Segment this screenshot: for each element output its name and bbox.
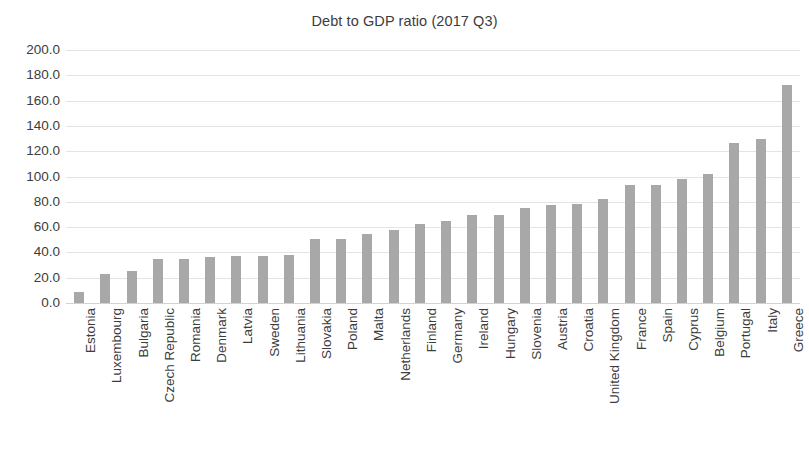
x-tick-label: Slovakia (320, 308, 334, 359)
bar-slot (459, 50, 485, 303)
bar[interactable] (310, 239, 320, 303)
bar[interactable] (415, 224, 425, 303)
bar[interactable] (520, 208, 530, 303)
bar-series (66, 50, 800, 303)
bar-slot (695, 50, 721, 303)
x-tick-label: Romania (189, 308, 203, 362)
bar-slot (721, 50, 747, 303)
bar-slot (407, 50, 433, 303)
bar-slot (564, 50, 590, 303)
bar[interactable] (703, 174, 713, 303)
bar[interactable] (231, 256, 241, 303)
bar-slot (381, 50, 407, 303)
bar-chart: Debt to GDP ratio (2017 Q3) 200.0180.016… (0, 0, 809, 476)
x-tick-label: Lithuania (294, 308, 308, 363)
x-tick-label: Netherlands (399, 308, 413, 381)
x-tick-label: Portugal (739, 308, 753, 358)
bar[interactable] (258, 256, 268, 303)
y-tick-label: 60.0 (0, 220, 60, 234)
bar[interactable] (494, 215, 504, 303)
x-tick-label: Latvia (241, 308, 255, 344)
x-tick-label: Austria (556, 308, 570, 350)
bar-slot (302, 50, 328, 303)
bar[interactable] (389, 230, 399, 303)
x-tick-label: Malta (372, 308, 386, 341)
y-tick-label: 160.0 (0, 94, 60, 108)
bar-slot (66, 50, 92, 303)
bar[interactable] (729, 143, 739, 303)
x-tick-label: Estonia (84, 308, 98, 353)
bar[interactable] (127, 271, 137, 303)
bar-slot (223, 50, 249, 303)
x-tick-label: Cyprus (687, 308, 701, 351)
bar-slot (197, 50, 223, 303)
x-tick-label: Czech Republic (163, 308, 177, 403)
bar[interactable] (441, 221, 451, 303)
bar-slot (774, 50, 800, 303)
gridline (66, 303, 800, 304)
bar-slot (118, 50, 144, 303)
bar[interactable] (598, 199, 608, 303)
x-tick-label: Bulgaria (137, 308, 151, 358)
y-tick-label: 40.0 (0, 246, 60, 260)
bar-slot (354, 50, 380, 303)
y-tick-label: 140.0 (0, 119, 60, 133)
bar[interactable] (572, 204, 582, 303)
bar-slot (250, 50, 276, 303)
bar-slot (433, 50, 459, 303)
bar-slot (643, 50, 669, 303)
x-tick-label: Sweden (268, 308, 282, 357)
bar[interactable] (546, 205, 556, 303)
x-tick-label: Croatia (582, 308, 596, 352)
x-tick-label: Germany (451, 308, 465, 364)
bar-slot (748, 50, 774, 303)
bar[interactable] (74, 292, 84, 303)
x-tick-label: France (635, 308, 649, 350)
x-tick-label: Spain (661, 308, 675, 343)
y-tick-label: 120.0 (0, 144, 60, 158)
bar[interactable] (467, 215, 477, 303)
y-tick-label: 20.0 (0, 271, 60, 285)
bar-slot (538, 50, 564, 303)
bar[interactable] (651, 185, 661, 303)
bar-slot (485, 50, 511, 303)
bar[interactable] (782, 85, 792, 303)
x-tick-label: Belgium (713, 308, 727, 357)
x-tick-label: United Kingdom (608, 308, 622, 404)
x-tick-label: Slovenia (530, 308, 544, 360)
bar[interactable] (756, 139, 766, 303)
bar-slot (328, 50, 354, 303)
bar-slot (512, 50, 538, 303)
bar[interactable] (205, 257, 215, 303)
y-tick-label: 180.0 (0, 69, 60, 83)
y-axis: 200.0180.0160.0140.0120.0100.080.060.040… (0, 0, 60, 476)
y-tick-label: 200.0 (0, 43, 60, 57)
bar[interactable] (362, 234, 372, 303)
bar-slot (590, 50, 616, 303)
bar-slot (145, 50, 171, 303)
x-tick-label: Poland (346, 308, 360, 350)
bar[interactable] (153, 259, 163, 303)
y-tick-label: 0.0 (0, 296, 60, 310)
bar[interactable] (625, 185, 635, 303)
bar[interactable] (179, 259, 189, 303)
bar-slot (92, 50, 118, 303)
bar-slot (617, 50, 643, 303)
y-tick-label: 80.0 (0, 195, 60, 209)
x-tick-label: Denmark (215, 308, 229, 363)
x-tick-label: Italy (766, 308, 780, 333)
x-axis: EstoniaLuxembourgBulgariaCzech RepublicR… (66, 308, 800, 476)
y-tick-label: 100.0 (0, 170, 60, 184)
bar[interactable] (284, 255, 294, 303)
bar[interactable] (100, 274, 110, 303)
bar[interactable] (677, 179, 687, 303)
x-tick-label: Luxembourg (110, 308, 124, 383)
x-tick-label: Greece (792, 308, 806, 352)
bar[interactable] (336, 239, 346, 304)
bar-slot (276, 50, 302, 303)
x-tick-label: Finland (425, 308, 439, 352)
bar-slot (669, 50, 695, 303)
x-tick-label: Hungary (504, 308, 518, 359)
bar-slot (171, 50, 197, 303)
x-tick-label: Ireland (477, 308, 491, 349)
